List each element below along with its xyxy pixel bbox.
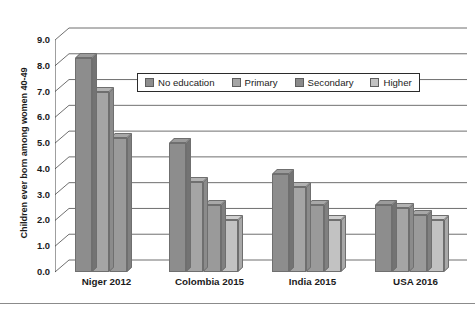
- y-tick-label: 6.0: [20, 112, 50, 122]
- legend: No educationPrimarySecondaryHigher: [137, 73, 420, 92]
- bar-front-face: [272, 174, 289, 272]
- y-tick-label: 1.0: [20, 241, 50, 251]
- bar-side-face: [409, 203, 414, 272]
- legend-swatch-icon: [370, 78, 379, 87]
- y-tick-label: 9.0: [20, 35, 50, 45]
- bar-front-face: [169, 143, 186, 272]
- legend-item: Primary: [232, 77, 278, 88]
- legend-item: No education: [145, 77, 215, 88]
- bars-layer: [55, 8, 467, 274]
- legend-label: No education: [158, 77, 215, 88]
- y-tick-label: 4.0: [20, 164, 50, 174]
- legend-swatch-icon: [232, 78, 241, 87]
- figure-caption: [3, 306, 473, 317]
- bar-side-face: [306, 182, 311, 272]
- legend-item: Higher: [370, 77, 411, 88]
- bar-side-face: [341, 216, 346, 272]
- y-axis-tick-labels: 9.08.07.06.05.04.03.02.01.00.0: [18, 0, 50, 318]
- bar: [375, 205, 392, 272]
- bar-side-face: [127, 133, 132, 272]
- plot-area: [55, 8, 467, 274]
- legend-item: Secondary: [295, 77, 354, 88]
- caption-divider: [0, 303, 475, 304]
- bar-side-face: [238, 216, 243, 272]
- bar-side-face: [221, 200, 226, 272]
- legend-label: Higher: [383, 77, 411, 88]
- y-tick-label: 8.0: [20, 61, 50, 71]
- bar: [75, 58, 92, 272]
- x-category-label: India 2015: [261, 276, 364, 287]
- x-category-label: Colombia 2015: [158, 276, 261, 287]
- y-tick-label: 5.0: [20, 138, 50, 148]
- bar-side-face: [92, 53, 97, 272]
- bar-side-face: [186, 138, 191, 272]
- bar-side-face: [109, 87, 114, 272]
- y-tick-label: 3.0: [20, 190, 50, 200]
- y-tick-label: 0.0: [20, 267, 50, 277]
- bar-front-face: [75, 58, 92, 272]
- y-tick-label: 7.0: [20, 87, 50, 97]
- bar-side-face: [392, 200, 397, 272]
- x-category-label: Niger 2012: [55, 276, 158, 287]
- legend-label: Primary: [245, 77, 278, 88]
- x-axis-category-labels: Niger 2012Colombia 2015India 2015USA 201…: [55, 276, 467, 292]
- bar-side-face: [324, 200, 329, 272]
- legend-label: Secondary: [308, 77, 354, 88]
- bar-side-face: [427, 210, 432, 272]
- bar: [272, 174, 289, 272]
- bar: [169, 143, 186, 272]
- bar-front-face: [375, 205, 392, 272]
- bar-side-face: [444, 216, 449, 272]
- figure-container: Children ever born among women 40-49 9.0…: [0, 0, 475, 318]
- legend-swatch-icon: [295, 78, 304, 87]
- x-category-label: USA 2016: [364, 276, 467, 287]
- bar-side-face: [289, 169, 294, 272]
- legend-swatch-icon: [145, 78, 154, 87]
- bar-side-face: [203, 177, 208, 272]
- y-tick-label: 2.0: [20, 215, 50, 225]
